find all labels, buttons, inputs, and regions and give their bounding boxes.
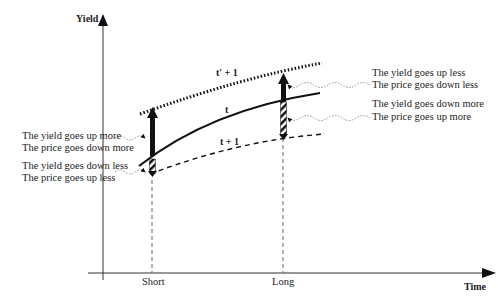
y-axis-label: Yield xyxy=(76,13,99,24)
long-up-arrow-icon xyxy=(278,73,289,84)
x-tick-long: Long xyxy=(272,276,295,287)
annotation-long-up-1: The yield goes up less xyxy=(372,67,465,78)
x-tick-short: Short xyxy=(142,276,165,287)
annotation-short-down-1: The yield goes down less xyxy=(22,160,128,171)
short-down-arrow-icon xyxy=(148,171,157,177)
annotation-short-down-2: The price goes up less xyxy=(22,172,115,183)
short-down-bar xyxy=(150,159,156,173)
annotation-short-up-1: The yield goes up more xyxy=(22,130,121,141)
annotation-long-down-1: The yield goes down more xyxy=(372,98,484,109)
long-down-bar xyxy=(281,102,287,136)
annotation-long-up-2: The price goes down less xyxy=(372,79,478,90)
x-axis-arrow-icon xyxy=(482,268,496,278)
long-down-leader xyxy=(288,116,370,121)
curve-label-t-plus-1: t + 1 xyxy=(220,136,239,147)
curve-t xyxy=(139,93,320,166)
curve-label-t: t xyxy=(225,104,229,115)
long-up-bar xyxy=(281,82,286,102)
annotation-long-down-2: The price goes up more xyxy=(372,111,471,122)
x-axis-label: Time xyxy=(464,281,487,292)
annotation-short-up-2: The price goes down more xyxy=(22,142,134,153)
curve-label-t-prime-plus-1: t' + 1 xyxy=(216,67,238,78)
long-up-leader xyxy=(288,83,370,88)
y-axis-arrow-icon xyxy=(98,14,108,26)
yield-curve-diagram: Yield Time Short Long t' + 1 t t + 1 The… xyxy=(0,0,498,303)
short-up-bar xyxy=(150,116,155,156)
